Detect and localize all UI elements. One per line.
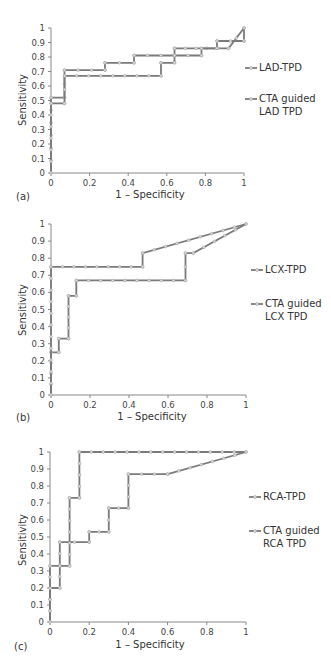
- data-point-marker: [88, 531, 91, 534]
- data-point-marker: [114, 451, 117, 454]
- data-point-marker: [78, 462, 81, 465]
- data-point-marker: [68, 542, 71, 545]
- chart-c-svg: 00.10.20.30.40.50.60.70.80.9100.20.40.60…: [0, 0, 331, 668]
- x-tick-label: 0.6: [161, 627, 175, 637]
- data-point-marker: [90, 451, 93, 454]
- legend-label-2b: RCA TPD: [263, 538, 307, 549]
- data-point-marker: [98, 531, 101, 534]
- data-point-marker: [127, 473, 130, 476]
- data-point-marker: [58, 565, 61, 568]
- data-point-marker: [68, 565, 71, 568]
- roc-curve-line: [50, 452, 246, 622]
- data-point-marker: [233, 451, 236, 454]
- data-point-marker: [127, 495, 130, 498]
- y-tick-label: 0: [39, 617, 44, 627]
- y-tick-label: 0.5: [30, 532, 44, 542]
- data-point-marker: [107, 531, 110, 534]
- y-axis-label: Sensitivity: [17, 514, 28, 566]
- y-tick-label: 0.1: [30, 600, 44, 610]
- data-point-marker: [127, 484, 130, 487]
- data-point-marker: [126, 451, 129, 454]
- legend: RCA-TPD CTA guided RCA TPD: [249, 491, 320, 549]
- data-point-marker: [177, 470, 180, 473]
- data-point-marker: [58, 552, 61, 555]
- y-tick-label: 0.3: [30, 566, 44, 576]
- data-point-marker: [49, 609, 52, 612]
- data-point-marker: [58, 541, 61, 544]
- y-tick-label: 0.9: [30, 464, 44, 474]
- y-tick-label: 0.8: [30, 481, 44, 491]
- data-point-marker: [200, 463, 203, 466]
- data-point-marker: [149, 451, 152, 454]
- data-point-marker: [189, 466, 192, 469]
- data-point-marker: [117, 507, 120, 510]
- x-tick-label: 0.2: [82, 627, 96, 637]
- data-point-marker: [73, 541, 76, 544]
- data-point-marker: [140, 473, 143, 476]
- data-point-marker: [49, 598, 52, 601]
- data-point-marker: [161, 451, 164, 454]
- data-point-marker: [68, 531, 71, 534]
- data-point-marker: [88, 541, 91, 544]
- data-point-marker: [102, 451, 105, 454]
- y-tick-label: 0.2: [30, 583, 44, 593]
- data-point-marker: [68, 519, 71, 522]
- data-point-marker: [211, 460, 214, 463]
- data-point-marker: [107, 507, 110, 510]
- data-point-marker: [197, 451, 200, 454]
- legend-label-2: CTA guided: [263, 525, 320, 536]
- y-tick-label: 0.4: [30, 549, 44, 559]
- data-point-marker: [49, 576, 52, 579]
- data-point-marker: [221, 451, 224, 454]
- data-point-marker: [222, 457, 225, 460]
- legend-label-1: RCA-TPD: [263, 491, 306, 502]
- data-point-marker: [78, 474, 81, 477]
- data-point-marker: [245, 451, 248, 454]
- data-point-marker: [185, 451, 188, 454]
- data-point-marker: [209, 451, 212, 454]
- x-tick-label: 0: [47, 627, 52, 637]
- data-point-marker: [107, 519, 110, 522]
- data-point-marker: [68, 497, 71, 500]
- data-point-marker: [58, 587, 61, 590]
- data-point-marker: [173, 451, 176, 454]
- data-point-marker: [166, 473, 169, 476]
- data-point-marker: [78, 485, 81, 488]
- y-tick-label: 0.6: [30, 515, 44, 525]
- data-point-marker: [68, 553, 71, 556]
- x-axis-label: 1 – Specificity: [115, 639, 184, 650]
- data-point-marker: [49, 565, 52, 568]
- data-point-marker: [78, 497, 81, 500]
- x-tick-label: 1: [243, 627, 248, 637]
- data-point-marker: [233, 454, 236, 457]
- y-tick-label: 0.7: [30, 498, 44, 508]
- data-point-marker: [78, 451, 81, 454]
- data-point-marker: [127, 507, 130, 510]
- data-point-marker: [138, 451, 141, 454]
- legend-marker-icon: [249, 530, 261, 533]
- y-tick-label: 1: [39, 447, 44, 457]
- roc-chart-c: 00.10.20.30.40.50.60.70.80.9100.20.40.60…: [0, 0, 331, 668]
- data-point-marker: [68, 508, 71, 511]
- data-point-marker: [58, 575, 61, 578]
- legend-marker-icon: [249, 496, 261, 499]
- series-group: [49, 451, 248, 624]
- data-point-marker: [49, 587, 52, 590]
- x-tick-label: 0.8: [200, 627, 214, 637]
- data-point-marker: [153, 473, 156, 476]
- x-tick-label: 0.4: [122, 627, 136, 637]
- panel-tag-c: (c): [14, 641, 27, 652]
- data-point-marker: [49, 621, 52, 624]
